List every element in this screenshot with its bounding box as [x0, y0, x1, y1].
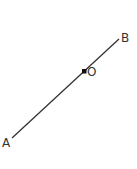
label-o: O — [87, 65, 96, 79]
point-o-marker — [82, 69, 87, 74]
diagram-canvas: B O A — [0, 0, 137, 169]
label-a: A — [2, 136, 11, 150]
label-b: B — [121, 31, 129, 45]
segment-ab — [12, 39, 119, 138]
